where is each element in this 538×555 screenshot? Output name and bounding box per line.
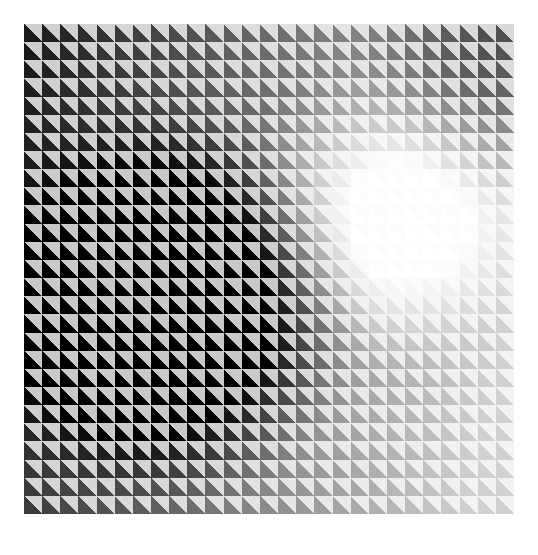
triangle-grid	[24, 24, 514, 514]
artwork-canvas	[0, 0, 538, 555]
triangle-grid-svg	[24, 24, 514, 514]
